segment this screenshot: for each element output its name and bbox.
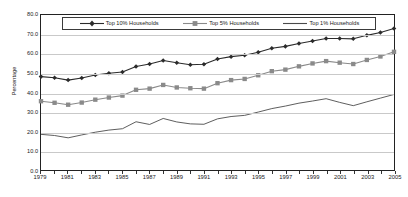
data-point-marker [310,39,315,44]
gridline [41,152,394,153]
legend-key-line-icon [282,19,308,28]
plot-area [40,14,395,171]
legend-label-top5: Top 5% Households [209,20,259,27]
gridline [41,94,394,95]
data-point-marker [202,62,207,67]
x-axis-tick-label: 1989 [164,173,190,181]
data-point-marker [93,97,97,101]
data-point-marker [52,76,57,81]
gridline [41,54,394,55]
data-point-marker [147,86,151,90]
data-point-marker [283,67,287,71]
data-point-marker [39,99,43,103]
chart-legend: Top 10% Households Top 5% Households Top… [62,17,376,30]
data-point-marker [351,62,355,66]
legend-label-top10: Top 10% Households [106,20,159,27]
gridline [41,74,394,75]
data-point-marker [392,26,397,31]
y-axis-tick-label: 10.0 [27,148,38,154]
data-point-marker [229,78,233,82]
legend-item-top10: Top 10% Households [79,19,159,28]
data-point-marker [147,62,152,67]
x-axis-tick-label: 1985 [109,173,135,181]
data-point-marker [215,81,219,85]
data-point-marker [270,69,274,73]
income-share-line-chart: Percentage 0.010.020.030.040.050.060.070… [0,0,408,197]
x-axis-tick-label: 2001 [327,173,353,181]
data-point-marker [324,59,328,63]
y-axis-tick-label: 80.0 [27,11,38,17]
data-point-marker [39,74,44,79]
data-point-marker [161,83,165,87]
data-point-marker [324,36,329,41]
x-axis-tick-label: 2005 [382,173,408,181]
x-axis-tick-label: 1983 [82,173,108,181]
data-point-marker [338,60,342,64]
data-point-marker [365,58,369,62]
x-axis-tick-label: 1981 [54,173,80,181]
data-point-marker [310,61,314,65]
x-axis-tick-label: 1987 [136,173,162,181]
data-point-marker [161,58,166,63]
legend-key-square-icon [182,19,208,28]
data-point-marker [297,64,301,68]
gridline [41,35,394,36]
x-axis-tick-label: 1999 [300,173,326,181]
data-point-marker [66,103,70,107]
data-point-marker [270,46,275,51]
data-point-marker [134,64,139,69]
legend-item-top1: Top 1% Households [282,19,359,28]
data-point-marker [79,76,84,81]
data-point-marker [202,86,206,90]
y-axis-tick-labels: 0.010.020.030.040.050.060.070.080.0 [14,0,38,197]
x-axis-tick-label: 1995 [245,173,271,181]
data-point-marker [215,57,220,62]
y-axis-tick-label: 60.0 [27,50,38,56]
legend-key-diamond-icon [79,19,105,28]
data-point-marker [134,88,138,92]
x-axis-tick-label: 1997 [273,173,299,181]
data-point-marker [174,60,179,65]
data-point-marker [107,95,111,99]
series-layer [41,15,394,170]
x-axis-tick-label: 2003 [355,173,381,181]
data-point-marker [188,63,193,68]
gridline [41,113,394,114]
x-axis-tick-label: 1979 [27,173,53,181]
data-point-marker [337,36,342,41]
data-point-marker [351,37,356,42]
legend-label-top1: Top 1% Households [309,20,359,27]
y-axis-tick-label: 50.0 [27,70,38,76]
data-point-marker [52,101,56,105]
y-axis-tick-label: 30.0 [27,109,38,115]
data-point-marker [283,44,288,49]
data-point-marker [175,85,179,89]
data-point-marker [242,77,246,81]
x-axis-tick-label: 1991 [191,173,217,181]
y-axis-tick-label: 20.0 [27,129,38,135]
data-point-marker [188,86,192,90]
legend-item-top5: Top 5% Households [182,19,259,28]
y-axis-tick-label: 40.0 [27,90,38,96]
data-point-marker [297,41,302,46]
data-point-marker [66,78,71,83]
x-axis-tick-label: 1993 [218,173,244,181]
x-axis-tick-labels: 1979198119831985198719891991199319951997… [0,173,408,191]
gridline [41,133,394,134]
data-point-marker [80,100,84,104]
y-axis-tick-label: 70.0 [27,31,38,37]
